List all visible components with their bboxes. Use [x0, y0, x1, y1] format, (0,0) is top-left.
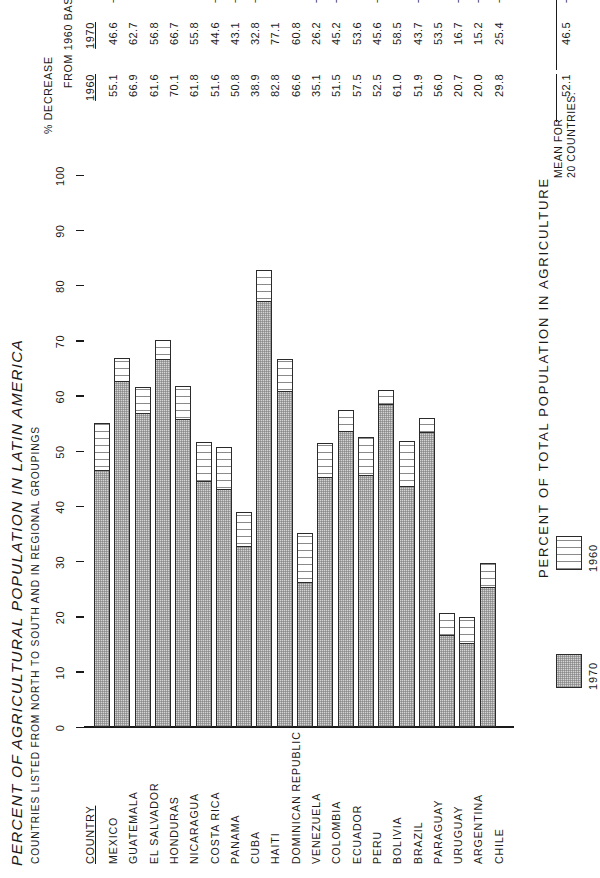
- bar-peru: [358, 437, 374, 727]
- cell-decrease: − 15.2: [229, 0, 241, 22]
- bar-argentina: [459, 617, 475, 727]
- cell-1970: 60.8: [290, 22, 302, 68]
- cell-decrease: − 4.9: [168, 0, 180, 22]
- bar-colombia: [317, 443, 333, 727]
- bar-segment-1970: [297, 582, 313, 727]
- column-header-decrease-line1: % DECREASE: [42, 56, 54, 134]
- cell-1970: 16.7: [452, 22, 464, 68]
- axis-tick-label: 0: [54, 711, 66, 745]
- row-label-country: ECUADOR: [351, 805, 363, 864]
- row-label-country: ARGENTINA: [472, 794, 484, 864]
- bar-segment-1970: [399, 486, 415, 727]
- cell-decrease: − 13.1: [371, 0, 383, 22]
- row-label-country: PARAGUAY: [432, 800, 444, 865]
- axis-tick-label: 70: [54, 325, 66, 359]
- chart-subtitle: COUNTRIES LISTED FROM NORTH TO SOUTH AND…: [30, 426, 41, 864]
- cell-1970: 77.1: [269, 22, 281, 68]
- column-header-decrease-line2: FROM 1960 BASE: [62, 0, 74, 88]
- cell-1970: 56.8: [148, 22, 160, 68]
- cell-1960: 66.6: [290, 74, 302, 120]
- cell-1970: 44.6: [209, 22, 221, 68]
- bar-costa-rica: [196, 442, 212, 727]
- axis-tick-label: 30: [54, 545, 66, 579]
- bar-mexico: [94, 423, 110, 727]
- cell-1970: 66.7: [168, 22, 180, 68]
- cell-1970: 25.4: [493, 22, 505, 68]
- cell-1960: 35.1: [310, 74, 322, 120]
- cell-1970: 46.6: [107, 22, 119, 68]
- row-label-country: PERU: [371, 831, 383, 864]
- cell-1960: 82.8: [269, 74, 281, 120]
- cell-decrease: − 6.9: [269, 0, 281, 22]
- cell-1970: 43.7: [412, 22, 424, 68]
- row-label-country: PANAMA: [229, 815, 241, 864]
- axis-tick-label: 10: [54, 656, 66, 690]
- column-header-1960: 1960: [84, 74, 96, 118]
- bar-uruguay: [439, 613, 455, 727]
- cell-1960: 70.1: [168, 74, 180, 120]
- row-label-country: HONDURAS: [168, 796, 180, 864]
- row-label-country: HAITI: [269, 832, 281, 864]
- axis-tick: [76, 561, 84, 562]
- cell-1960: 20.7: [452, 74, 464, 120]
- bar-guatemala: [114, 358, 130, 727]
- cell-1960: 66.9: [127, 74, 139, 120]
- bar-segment-1970: [175, 419, 191, 727]
- bar-paraguay: [419, 418, 435, 727]
- legend-swatch-1970: [556, 654, 582, 688]
- bar-venezuela: [297, 533, 313, 727]
- bar-segment-1970: [256, 301, 272, 727]
- axis-tick-label: 90: [54, 214, 66, 248]
- cell-1960: 52.5: [371, 74, 383, 120]
- cell-1970: 55.8: [188, 22, 200, 68]
- row-label-country: URUGUAY: [452, 806, 464, 865]
- cell-decrease: − 19.3: [452, 0, 464, 22]
- bar-segment-1970: [317, 478, 333, 728]
- axis-tick-label: 50: [54, 435, 66, 469]
- cell-decrease: − 6.3: [127, 0, 139, 22]
- bar-segment-1970: [135, 413, 151, 727]
- column-header-country: COUNTRY: [84, 806, 96, 864]
- cell-decrease: − 12.2: [330, 0, 342, 22]
- column-header-1970: 1970: [84, 22, 96, 66]
- bar-segment-1970: [236, 546, 252, 727]
- row-label-country: DOMINICAN REPUBLIC: [290, 731, 302, 864]
- cell-1960: 57.5: [351, 74, 363, 120]
- bar-dominican-republic: [277, 359, 293, 727]
- row-label-country: CUBA: [249, 831, 261, 864]
- bar-segment-1970: [277, 391, 293, 727]
- bar-segment-1970: [196, 481, 212, 727]
- row-label-country: CHILE: [493, 828, 505, 864]
- cell-1960: 20.0: [472, 74, 484, 120]
- bar-chile: [480, 563, 496, 727]
- bar-ecuador: [338, 410, 354, 727]
- axis-tick-label: 100: [54, 159, 66, 193]
- cell-decrease: − 25.4: [310, 0, 322, 22]
- bar-el-salvador: [135, 387, 151, 727]
- axis-tick: [76, 506, 84, 507]
- bar-segment-1970: [480, 587, 496, 727]
- row-label-country: BOLIVIA: [391, 816, 403, 864]
- axis-tick: [76, 340, 84, 341]
- cell-1960: 29.8: [493, 74, 505, 120]
- bar-haiti: [256, 270, 272, 727]
- cell-1970: 53.5: [432, 22, 444, 68]
- bar-brazil: [399, 441, 415, 727]
- cell-1960: 38.9: [249, 74, 261, 120]
- legend-label-1970: 1970: [587, 662, 599, 690]
- bar-bolivia: [378, 390, 394, 727]
- cell-1970: 45.6: [371, 22, 383, 68]
- row-label-country: COLOMBIA: [330, 801, 342, 864]
- rotated-figure-wrapper: PERCENT OF AGRICULTURAL POPULATION IN LA…: [0, 0, 600, 878]
- bar-segment-1970: [155, 359, 171, 727]
- cell-decrease: − 7.8: [148, 0, 160, 22]
- cell-decrease: − 9.7: [188, 0, 200, 22]
- bar-segment-1970: [439, 635, 455, 727]
- x-axis-label: PERCENT OF TOTAL POPULATION IN AGRICULTU…: [536, 177, 551, 578]
- cell-1960: 50.8: [229, 74, 241, 120]
- cell-1970: 15.2: [472, 22, 484, 68]
- cell-decrease: − 15.8: [412, 0, 424, 22]
- bar-cuba: [236, 512, 252, 727]
- bar-honduras: [155, 340, 171, 727]
- cell-decrease: − 4.8: [432, 0, 444, 22]
